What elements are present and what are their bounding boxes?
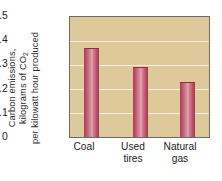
y-axis-title-line-1: Carbon emissions,	[7, 49, 18, 128]
bar-used-tires	[133, 67, 148, 137]
plot-inner	[70, 17, 209, 137]
y-tick-label-5: 0	[0, 131, 8, 142]
y-tick-label-0: 0.5	[0, 10, 8, 21]
bar-coal	[84, 48, 99, 137]
chart-figure: Carbon emissions, kilograms of CO2 per k…	[0, 0, 222, 181]
x-tick-label-natural-gas-line-1: Natural	[148, 141, 212, 153]
x-tick-label-natural-gas: Natural gas	[148, 141, 212, 165]
x-tick-label-natural-gas-line-2: gas	[148, 153, 212, 165]
y-axis-title-line-3: per kilowatt hour produced	[30, 32, 41, 144]
y-tick-label-3: 0.2	[0, 83, 8, 94]
gridline-0-4	[70, 41, 209, 42]
y-tick-label-2: 0.3	[0, 58, 8, 69]
y-axis-title-line-2: kilograms of CO2	[18, 52, 29, 124]
plot-area	[69, 16, 210, 138]
bar-natural-gas	[180, 82, 195, 137]
y-tick-label-1: 0.4	[0, 34, 8, 45]
y-axis-title-line-2-text: kilograms of CO	[18, 56, 28, 124]
co2-subscript: 2	[22, 52, 29, 56]
y-tick-label-4: 0.1	[0, 107, 8, 118]
